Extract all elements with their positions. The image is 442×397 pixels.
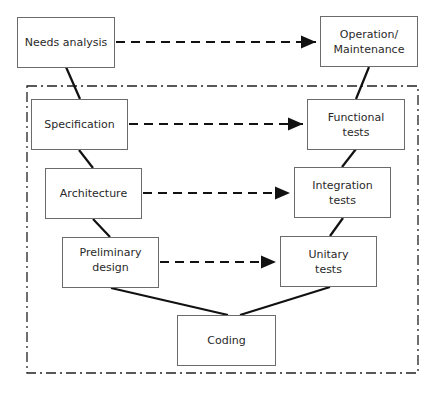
box-functional-tests: Functional tests — [307, 99, 405, 150]
box-operation-maintenance: Operation/ Maintenance — [320, 16, 418, 67]
box-coding: Coding — [177, 315, 276, 366]
box-label: Operation/ Maintenance — [334, 27, 405, 57]
box-architecture: Architecture — [45, 168, 142, 219]
box-label: Needs analysis — [25, 35, 108, 50]
box-preliminary-design: Preliminary design — [62, 237, 159, 288]
box-unitary-tests: Unitary tests — [280, 236, 377, 287]
box-label: Specification — [44, 117, 115, 132]
box-specification: Specification — [31, 99, 128, 150]
box-label: Functional tests — [328, 110, 385, 140]
box-integration-tests: Integration tests — [294, 167, 391, 218]
box-label: Coding — [207, 333, 245, 348]
box-label: Architecture — [60, 186, 127, 201]
box-label: Preliminary design — [79, 245, 141, 275]
box-needs-analysis: Needs analysis — [17, 17, 115, 68]
box-label: Integration tests — [312, 178, 373, 208]
box-label: Unitary tests — [308, 247, 348, 277]
dashed-arrows — [116, 42, 316, 262]
